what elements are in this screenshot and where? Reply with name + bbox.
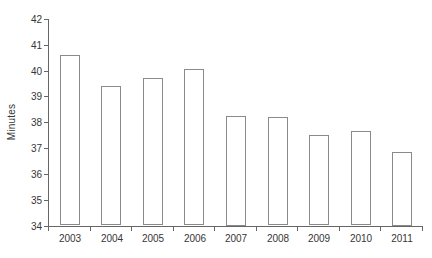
x-tick	[131, 227, 132, 231]
x-tick-label: 2008	[257, 233, 299, 244]
x-tick	[173, 227, 174, 231]
y-tick	[44, 71, 48, 72]
x-tick-label: 2007	[215, 233, 257, 244]
x-tick-label: 2011	[381, 233, 423, 244]
x-tick	[380, 227, 381, 231]
x-axis-line	[48, 226, 423, 227]
y-tick	[44, 45, 48, 46]
y-tick-label: 39	[22, 91, 42, 102]
bar-2003	[60, 55, 80, 225]
y-axis-title: Minutes	[6, 104, 17, 140]
y-tick	[44, 174, 48, 175]
bar-chart-figure: Minutes 34353637383940414220032004200520…	[0, 0, 432, 258]
y-axis-line	[48, 19, 49, 227]
x-tick	[339, 227, 340, 231]
bar-2005	[143, 78, 163, 225]
bar-2004	[101, 86, 121, 225]
y-tick	[44, 122, 48, 123]
y-tick	[44, 19, 48, 20]
x-tick-label: 2004	[91, 233, 133, 244]
x-tick-label: 2003	[49, 233, 91, 244]
bar-2007	[226, 116, 246, 226]
x-tick-label: 2006	[174, 233, 216, 244]
bar-2010	[351, 131, 371, 225]
x-tick-label: 2005	[132, 233, 174, 244]
bar-2006	[184, 69, 204, 225]
x-tick	[256, 227, 257, 231]
y-tick-label: 40	[22, 66, 42, 77]
y-tick-label: 34	[22, 221, 42, 232]
x-tick	[90, 227, 91, 231]
y-tick	[44, 200, 48, 201]
bar-2011	[392, 152, 412, 226]
y-tick-label: 35	[22, 195, 42, 206]
y-tick-label: 42	[22, 14, 42, 25]
y-tick-label: 41	[22, 40, 42, 51]
y-tick-label: 37	[22, 143, 42, 154]
bar-2009	[309, 135, 329, 225]
x-tick	[422, 227, 423, 231]
x-tick	[297, 227, 298, 231]
y-tick	[44, 148, 48, 149]
x-tick	[214, 227, 215, 231]
x-tick-label: 2009	[298, 233, 340, 244]
y-tick-label: 36	[22, 169, 42, 180]
y-tick-label: 38	[22, 117, 42, 128]
bar-2008	[268, 117, 288, 225]
x-tick-label: 2010	[340, 233, 382, 244]
y-tick	[44, 96, 48, 97]
x-tick	[48, 227, 49, 231]
